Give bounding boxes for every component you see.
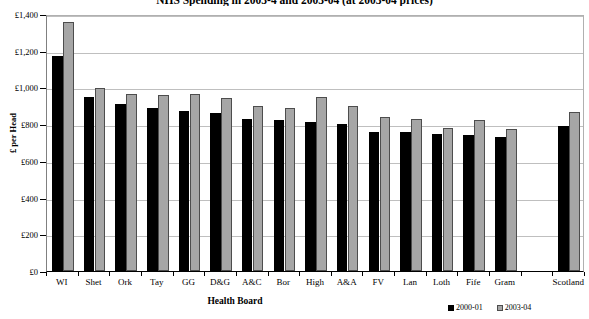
x-tick-label-Gram: Gram	[489, 277, 521, 287]
bar-WI-2000-01	[52, 56, 63, 271]
chart-title: NHS Spending in 2003-4 and 2003-04 (at 2…	[0, 0, 589, 6]
y-tick-mark	[40, 88, 46, 89]
x-tick-mark	[268, 272, 269, 276]
bar-Shet-2000-01	[84, 97, 95, 271]
x-tick-mark	[362, 272, 363, 276]
bar-FV-2000-01	[369, 132, 380, 272]
bar-Gram-2003-04	[506, 129, 517, 271]
x-tick-label-Ork: Ork	[109, 277, 141, 287]
y-tick-label: £1,200	[15, 48, 38, 57]
y-tick-mark	[40, 199, 46, 200]
bar-Loth-2003-04	[443, 128, 454, 271]
plot-area	[46, 15, 584, 272]
x-tick-mark	[204, 272, 205, 276]
bar-A&C-2003-04	[253, 106, 264, 271]
x-tick-label-WI: WI	[46, 277, 78, 287]
x-tick-mark	[141, 272, 142, 276]
x-tick-label-Fife: Fife	[457, 277, 489, 287]
y-tick-label: £1,000	[15, 84, 38, 93]
bar-FV-2003-04	[380, 117, 391, 271]
x-tick-mark	[46, 272, 47, 276]
x-tick-label-A&C: A&C	[236, 277, 268, 287]
bar-D&G-2000-01	[210, 113, 221, 271]
y-tick-mark	[40, 15, 46, 16]
bar-Scotland-2003-04	[569, 112, 580, 271]
x-tick-label-Loth: Loth	[426, 277, 458, 287]
legend-label: 2003-04	[505, 303, 532, 312]
y-tick-label: £1,400	[15, 11, 38, 20]
bar-High-2003-04	[316, 97, 327, 271]
bar-A&C-2000-01	[242, 119, 253, 271]
x-tick-mark	[173, 272, 174, 276]
x-tick-mark	[299, 272, 300, 276]
bar-Fife-2003-04	[474, 120, 485, 271]
y-tick-label: £800	[21, 121, 38, 130]
bar-GG-2003-04	[190, 94, 201, 271]
y-tick-label: £400	[21, 195, 38, 204]
bar-A&A-2003-04	[348, 106, 359, 271]
y-tick-mark	[40, 162, 46, 163]
x-tick-label-GG: GG	[173, 277, 205, 287]
legend-swatch-icon	[448, 305, 454, 311]
x-tick-label-Bor: Bor	[268, 277, 300, 287]
bar-A&A-2000-01	[337, 124, 348, 271]
bar-Ork-2003-04	[126, 94, 137, 271]
y-tick-mark	[40, 52, 46, 53]
bar-Loth-2000-01	[432, 134, 443, 271]
bar-WI-2003-04	[63, 22, 74, 271]
gridline	[47, 89, 583, 90]
x-tick-mark	[394, 272, 395, 276]
bar-chart: NHS Spending in 2003-4 and 2003-04 (at 2…	[0, 0, 589, 319]
bar-Scotland-2000-01	[558, 126, 569, 271]
bar-Shet-2003-04	[95, 88, 106, 271]
y-tick-label: £600	[21, 158, 38, 167]
x-tick-label-High: High	[299, 277, 331, 287]
x-tick-label-FV: FV	[362, 277, 394, 287]
x-tick-mark	[426, 272, 427, 276]
x-tick-label-Lan: Lan	[394, 277, 426, 287]
x-tick-label-A&A: A&A	[331, 277, 363, 287]
bar-GG-2000-01	[179, 111, 190, 271]
bar-Tay-2000-01	[147, 108, 158, 271]
bar-Tay-2003-04	[158, 95, 169, 271]
x-tick-mark	[78, 272, 79, 276]
x-tick-mark	[109, 272, 110, 276]
x-tick-mark	[457, 272, 458, 276]
legend-swatch-icon	[497, 305, 503, 311]
x-tick-label-D&G: D&G	[204, 277, 236, 287]
y-axis-title: £ per Head	[8, 98, 18, 168]
y-tick-mark	[40, 235, 46, 236]
bar-Fife-2000-01	[463, 135, 474, 271]
x-axis-title: Health Board	[0, 296, 470, 306]
bar-Ork-2000-01	[115, 104, 126, 271]
legend-label: 2000-01	[456, 303, 483, 312]
bar-Lan-2003-04	[411, 119, 422, 271]
bar-D&G-2003-04	[221, 98, 232, 271]
x-tick-label-Shet: Shet	[78, 277, 110, 287]
x-tick-label-Tay: Tay	[141, 277, 173, 287]
x-tick-mark	[236, 272, 237, 276]
y-tick-label: £0	[30, 268, 39, 277]
legend-item-2003-04[interactable]: 2003-04	[497, 303, 532, 312]
chart-legend: 2000-012003-04	[448, 303, 531, 312]
x-tick-mark	[584, 272, 585, 276]
gridline	[47, 53, 583, 54]
bar-Gram-2000-01	[495, 137, 506, 271]
bar-High-2000-01	[305, 122, 316, 271]
x-tick-mark	[521, 272, 522, 276]
bar-Lan-2000-01	[400, 132, 411, 271]
x-tick-mark	[552, 272, 553, 276]
x-tick-label-Scotland: Scotland	[552, 277, 584, 287]
bar-Bor-2000-01	[274, 120, 285, 271]
y-tick-label: £200	[21, 231, 38, 240]
gridline	[47, 16, 583, 17]
x-tick-mark	[331, 272, 332, 276]
x-tick-mark	[489, 272, 490, 276]
legend-item-2000-01[interactable]: 2000-01	[448, 303, 483, 312]
y-tick-mark	[40, 125, 46, 126]
bar-Bor-2003-04	[285, 108, 296, 271]
